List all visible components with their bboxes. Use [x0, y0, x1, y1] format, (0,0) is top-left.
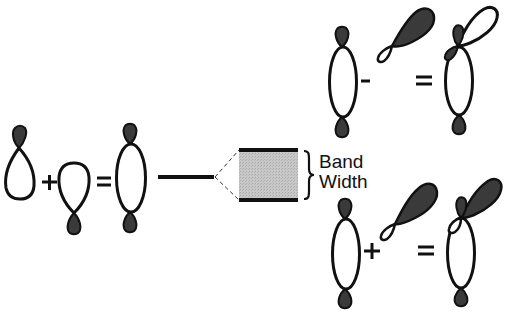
antibonding-mixed-orbital — [445, 7, 498, 134]
open-p-lobe — [458, 7, 497, 46]
sigma-combined-orbital — [117, 124, 146, 233]
tilted-p-orbital-bottom — [381, 184, 437, 240]
dark-p-lobe — [462, 179, 501, 218]
equals-operator-bottom — [418, 247, 434, 254]
curly-brace-icon — [304, 151, 314, 199]
tilted-p-orbital-top — [378, 9, 434, 62]
sigma-orbital-bottom — [333, 199, 360, 309]
equals-operator — [97, 178, 111, 185]
band-spread-dashes — [215, 150, 239, 200]
band-label: Band — [319, 152, 363, 171]
energy-band — [239, 148, 298, 202]
dark-lobe — [68, 213, 81, 234]
dark-lobe — [13, 126, 26, 148]
sigma-orbital-top — [330, 27, 357, 138]
band-top-edge — [239, 148, 298, 152]
open-lobe — [59, 163, 89, 213]
bonding-mixed-orbital — [448, 179, 502, 306]
plus-operator-bottom — [364, 243, 380, 259]
sp-orbital-up — [6, 126, 34, 199]
band-bottom-edge — [239, 198, 298, 202]
open-lobe — [6, 148, 34, 199]
central-ellipse — [117, 144, 146, 212]
band-width-diagram — [0, 0, 506, 311]
width-label: Width — [319, 172, 368, 191]
plus-operator — [42, 175, 57, 190]
equals-operator-top — [416, 77, 432, 84]
dark-lobe-bottom — [124, 212, 137, 232]
sp-orbital-down — [59, 163, 89, 234]
dark-lobe-top — [124, 124, 137, 144]
band-fill — [239, 150, 298, 200]
